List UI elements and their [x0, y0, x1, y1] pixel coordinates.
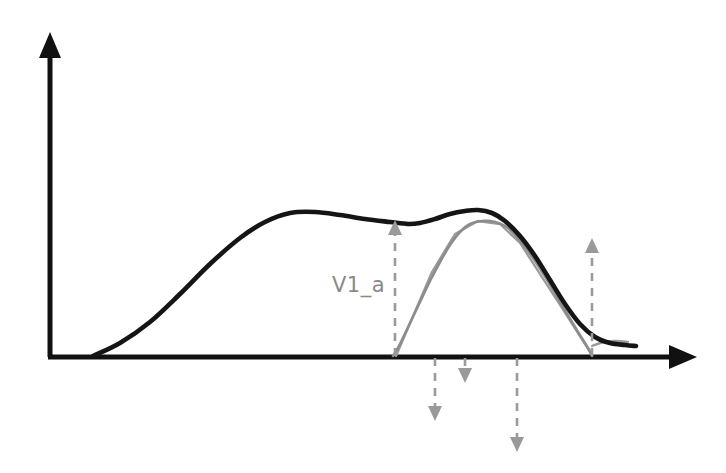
vertical-axis-arrowhead — [39, 32, 61, 58]
right-boundary-marker-arrowhead — [585, 238, 599, 253]
down-marker-3-arrowhead — [510, 437, 524, 452]
down-marker-2 — [458, 358, 472, 383]
annotation-label-v1a: V1_a — [332, 273, 385, 298]
marker-group — [388, 220, 599, 452]
down-marker-1-arrowhead — [428, 406, 442, 421]
v1a-boundary-marker — [388, 220, 402, 356]
down-marker-1 — [428, 358, 442, 421]
axes-group — [39, 32, 697, 369]
horizontal-axis-arrowhead — [669, 345, 697, 369]
series-component-distribution — [393, 221, 592, 356]
plot-canvas: V1_a — [0, 0, 726, 473]
figure-root: V1_a — [0, 0, 726, 473]
down-marker-3 — [510, 358, 524, 452]
down-marker-2-arrowhead — [458, 368, 472, 383]
